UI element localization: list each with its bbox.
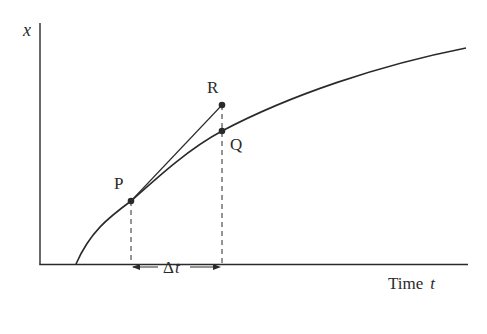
interval-label: Δt bbox=[163, 258, 181, 277]
point-q-label: Q bbox=[230, 135, 242, 154]
point-p-label: P bbox=[114, 174, 123, 193]
displacement-time-diagram: x Timet P Q R Δt bbox=[0, 0, 487, 334]
point-r-label: R bbox=[207, 78, 219, 97]
position-curve bbox=[76, 48, 466, 264]
point-r-dot bbox=[219, 102, 226, 109]
point-p-dot bbox=[128, 198, 135, 205]
x-axis-label: Timet bbox=[388, 274, 436, 293]
x-axis-label-var: t bbox=[430, 274, 436, 293]
point-q-dot bbox=[219, 128, 226, 135]
tangent-line bbox=[131, 105, 222, 201]
y-axis-label: x bbox=[22, 20, 31, 40]
interval-label-var: t bbox=[175, 258, 181, 277]
x-axis-label-word: Time bbox=[388, 274, 423, 293]
interval-label-delta: Δ bbox=[163, 258, 174, 277]
